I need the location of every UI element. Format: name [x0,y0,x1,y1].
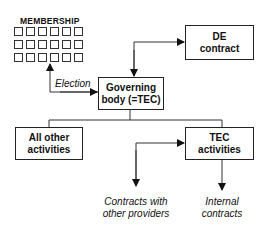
member-square [62,53,71,62]
member-square [26,53,35,62]
all-other-activities-line1: All other [29,132,70,144]
member-square [38,40,47,49]
member-square [14,53,23,62]
member-square [50,40,59,49]
member-square [14,40,23,49]
internal-contracts-line2: contracts [192,208,252,220]
contracts-other-providers-label: Contracts with other providers [96,196,176,220]
tec-activities-line1: TEC [210,132,230,144]
all-other-activities-box: All other activities [15,127,83,160]
tree-connector [49,120,222,127]
member-square [50,53,59,62]
governing-body-box: Governing body (=TEC) [98,77,164,110]
internal-contracts-label: Internal contracts [192,196,252,220]
membership-title: MEMBERSHIP [20,15,80,27]
contracts-other-line1: Contracts with [96,196,176,208]
governing-body-line1: Governing [106,82,156,94]
member-square [74,53,83,62]
de-contract-line1: DE [213,31,227,43]
member-square [74,40,83,49]
member-square [26,40,35,49]
member-square [38,53,47,62]
tec-activities-box: TEC activities [185,127,254,160]
internal-contracts-line1: Internal [192,196,252,208]
member-square [26,27,35,36]
election-label: Election [55,78,91,90]
tec-activities-line2: activities [198,144,241,156]
contracts-other-line2: other providers [96,208,176,220]
member-square [50,27,59,36]
de-contract-line2: contract [200,43,239,55]
member-square [14,27,23,36]
de-contract-box: DE contract [185,25,254,60]
governing-body-line2: body (=TEC) [101,94,160,106]
member-square [62,40,71,49]
member-square [62,27,71,36]
member-square [38,27,47,36]
member-square [74,27,83,36]
membership-grid [14,27,83,62]
all-other-activities-line2: activities [28,144,71,156]
